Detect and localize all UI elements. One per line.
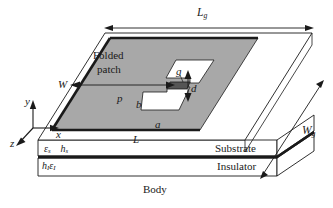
label-body: Body [143, 184, 167, 195]
label-substrate-params: εs hs [44, 144, 68, 155]
label-b: b [136, 99, 142, 110]
label-lg: Lg [197, 7, 207, 20]
label-p: p [117, 93, 123, 104]
label-g: g [176, 66, 182, 77]
figure-canvas: Lg Wg W L p a b g d Folded patch Substra… [0, 0, 333, 208]
label-wg: Wg [302, 125, 316, 138]
label-l: L [133, 134, 139, 145]
label-insulator-params: hIεI [42, 161, 55, 172]
label-w: W [58, 79, 67, 90]
diagram-svg [0, 0, 333, 208]
label-folded-patch-line2: patch [97, 64, 121, 75]
label-substrate: Substrate [215, 143, 256, 154]
label-a: a [155, 119, 161, 130]
dimension-lg [104, 25, 314, 31]
label-d: d [191, 83, 197, 94]
label-folded-patch-line1: Folded [93, 50, 124, 61]
axis-label-y: y [25, 96, 30, 107]
axis-label-x: x [56, 129, 61, 140]
axis-label-z: z [10, 138, 14, 149]
label-insulator: Insulator [217, 161, 256, 172]
